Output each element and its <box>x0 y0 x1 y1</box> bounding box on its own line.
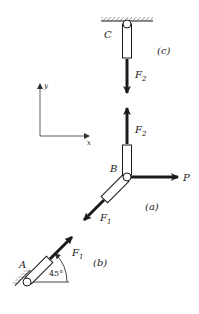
force-f1-up-arrow <box>50 237 72 259</box>
coordinate-axes: y x <box>40 82 91 147</box>
y-axis-label: y <box>43 82 49 90</box>
part-label-c: (c) <box>157 45 171 56</box>
label-f1-bottom: F1 <box>71 247 83 261</box>
free-body-diagram: C (c) F2 y x F2 P B F1 (a) 4 <box>0 0 199 314</box>
link-c <box>123 24 132 58</box>
label-b: B <box>109 163 117 174</box>
angle-label: 45° <box>49 269 63 278</box>
pin-b <box>123 173 131 181</box>
part-b-support: 45° F1 A (b) <box>12 237 107 286</box>
part-a-joint-b: F2 P B F1 (a) <box>84 108 190 226</box>
part-label-a: (a) <box>145 201 159 212</box>
link-b-vertical <box>123 145 132 175</box>
label-f2-top: F2 <box>134 69 147 83</box>
pin-c <box>123 20 131 28</box>
label-f1-mid: F1 <box>99 212 111 226</box>
x-axis-label: x <box>87 139 91 147</box>
label-p: P <box>182 172 190 183</box>
label-a: A <box>18 259 26 270</box>
part-c-support: C (c) F2 <box>101 17 171 93</box>
part-label-b: (b) <box>93 257 107 268</box>
pin-a <box>23 278 31 286</box>
label-f2-mid: F2 <box>134 124 147 138</box>
label-c: C <box>104 29 112 40</box>
